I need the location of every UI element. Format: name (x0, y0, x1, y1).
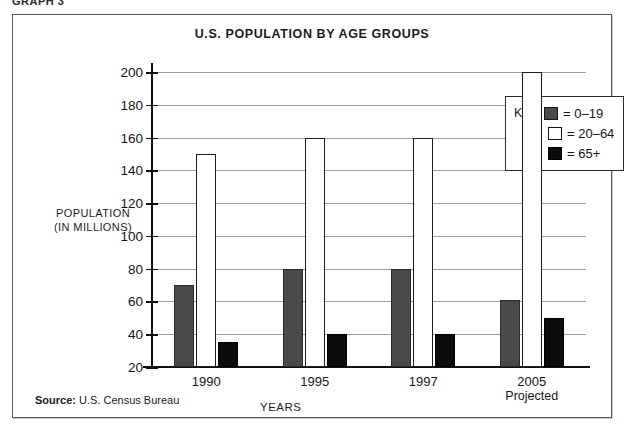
legend-entry-text: = 0–19 (563, 106, 603, 121)
y-tick-mark (146, 203, 158, 205)
bar-1997-0–19[interactable] (391, 269, 411, 367)
x-axis-title: YEARS (260, 401, 302, 413)
y-tick-label: 80 (128, 261, 143, 276)
y-tick-label: 60 (128, 294, 143, 309)
y-tick-label: 20 (128, 360, 143, 375)
bar-1995-0–19[interactable] (283, 269, 303, 367)
y-tick-mark (146, 236, 158, 238)
bar-1990-65+[interactable] (218, 342, 238, 367)
x-tick-label: 1995 (255, 374, 375, 389)
legend-entry-text: = 20–64 (567, 126, 614, 141)
y-tick-label: 160 (120, 130, 143, 145)
black-swatch-icon (548, 147, 562, 160)
white-swatch-icon (548, 127, 562, 140)
x-tick-label-year: 1997 (409, 374, 438, 389)
x-tick-label: 1990 (146, 374, 266, 389)
y-tick-label: 200 (120, 65, 143, 80)
x-tick-label-year: 1990 (192, 374, 221, 389)
x-tick-label: 1997 (363, 374, 483, 389)
bar-1997-65+[interactable] (435, 334, 455, 367)
y-tick-mark (146, 334, 158, 336)
y-tick-mark (146, 301, 158, 303)
y-tick-mark (146, 105, 158, 107)
y-tick-mark (146, 138, 158, 140)
y-tick-mark (146, 72, 158, 74)
bar-1990-20–64[interactable] (196, 154, 216, 367)
y-tick-label: 140 (120, 163, 143, 178)
x-tick-label-year: 2005 (517, 374, 546, 389)
y-axis-title-line1: POPULATION (56, 207, 130, 219)
bar-2005-0–19[interactable] (500, 300, 520, 367)
plot-area: 20406080100120140160180200 1990199519972… (152, 72, 586, 367)
bar-1990-0–19[interactable] (174, 285, 194, 367)
source-text: U.S. Census Bureau (76, 394, 179, 406)
y-tick-label: 180 (120, 97, 143, 112)
x-tick-label-sublabel: Projected (472, 389, 592, 404)
source-prefix: Source: (35, 394, 76, 406)
bar-1995-20–64[interactable] (305, 138, 325, 367)
chart-frame: U.S. POPULATION BY AGE GROUPS POPULATION… (12, 14, 612, 418)
graph-caption: GRAPH 3 (12, 0, 64, 7)
y-tick-mark (146, 170, 158, 172)
bar-2005-20–64[interactable] (522, 72, 542, 367)
bar-1997-20–64[interactable] (413, 138, 433, 367)
y-tick-label: 40 (128, 327, 143, 342)
chart-title: U.S. POPULATION BY AGE GROUPS (13, 27, 611, 41)
x-tick-label: 2005Projected (472, 374, 592, 404)
y-tick-label: 100 (120, 228, 143, 243)
y-tick-mark (146, 269, 158, 271)
source-note: Source: U.S. Census Bureau (35, 394, 179, 406)
bar-2005-65+[interactable] (544, 318, 564, 367)
x-tick-label-year: 1995 (300, 374, 329, 389)
gray-swatch-icon (544, 107, 558, 120)
y-tick-label: 120 (120, 196, 143, 211)
bar-1995-65+[interactable] (327, 334, 347, 367)
y-tick-mark (146, 367, 158, 369)
legend-entry-text: = 65+ (567, 146, 600, 161)
y-axis-line (151, 63, 153, 367)
